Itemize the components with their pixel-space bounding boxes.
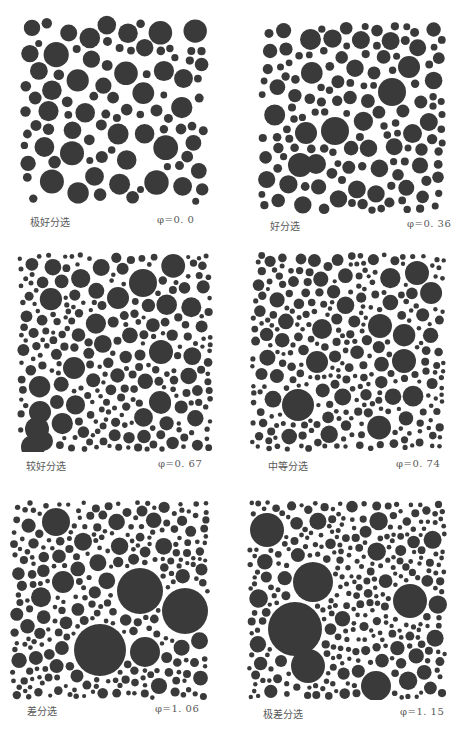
grain-circle [434,348,443,357]
grain-circle [130,421,134,425]
grain-circle [200,525,208,533]
grain-circle [63,254,67,258]
grain-circle [321,426,338,443]
grain-circle [349,416,354,421]
grain-circle [435,316,444,325]
grain-circle [348,199,356,207]
grain-circle [111,273,116,278]
grain-circle [290,309,295,314]
grain-circle [65,545,73,553]
grain-circle [21,45,38,62]
grain-circle [267,428,275,436]
grain-circle [259,419,268,428]
grain-circle [19,267,24,272]
grain-circle [58,607,65,614]
grain-circle [410,254,415,259]
grain-circle [403,124,422,143]
grain-circle [31,562,36,567]
grain-circle [253,682,257,686]
grain-circle [66,502,70,506]
grain-circle [332,254,344,266]
caption-very-poorly-sorted: 极差分选 [263,706,303,721]
grain-circle [440,509,445,514]
grain-circle [126,691,131,696]
grain-circle [161,331,165,335]
grain-circle [284,305,289,310]
grain-circle [67,182,88,203]
grain-circle [192,198,199,205]
grain-circle [195,94,204,103]
grain-circle [82,501,86,505]
grain-circle [30,555,35,560]
grain-circle [388,524,393,529]
grain-circle [386,596,391,601]
grain-circle [173,658,182,667]
grain-circle [20,556,28,564]
grain-circle [50,659,64,673]
grain-circle [405,632,414,641]
grain-circle [142,315,146,319]
grain-circle [426,568,431,573]
grain-circle [21,81,32,92]
grain-circle [26,694,31,699]
grain-circle [90,616,95,621]
grain-circle [393,324,415,346]
grain-circle [442,258,446,262]
grain-circle [86,157,93,164]
grain-circle [272,504,280,512]
grain-circle [382,32,400,50]
grain-circle [130,385,138,393]
grain-circle [326,87,333,94]
grain-circle [93,538,98,543]
grain-circle [162,588,208,634]
grain-circle [309,428,314,433]
grain-circle [346,591,351,596]
grain-circle [391,22,399,30]
grain-circle [85,167,104,186]
grain-circle [308,553,313,558]
grain-circle [336,328,341,333]
grain-circle [74,533,92,551]
grain-circle [314,439,322,447]
grain-circle [265,500,270,505]
grain-circle [122,630,126,634]
grain-circle [384,620,389,625]
grain-circle [159,502,170,513]
grain-circle [94,419,99,424]
grain-circle [417,561,421,565]
grain-circle [78,426,90,438]
grain-circle [298,345,309,356]
grain-circle [186,687,191,692]
grain-circle [150,530,155,535]
grain-circle [290,517,303,530]
grain-circle [20,619,34,633]
grain-circle [195,539,200,544]
grain-circle [179,558,184,563]
grain-circle [101,110,110,119]
grain-circle [189,430,194,435]
grain-circle [320,144,329,153]
grain-circle [354,398,359,403]
grain-circle [147,542,151,546]
grain-circle [377,307,382,312]
grain-circle [275,655,287,667]
grain-circle [280,153,287,160]
grain-circle [341,420,351,430]
grain-circle [192,385,203,396]
grain-circle [336,374,341,379]
grain-circle [187,410,203,426]
grain-packing-illustration [17,252,213,452]
grain-circle [439,111,446,118]
grain-circle [100,438,108,446]
grain-circle [202,516,209,523]
grain-circle [196,272,203,279]
grain-circle [109,278,114,283]
grain-circle [331,507,336,512]
grain-circle [11,679,16,684]
grain-circle [321,117,349,145]
grain-circle [171,579,176,584]
grain-circle [433,571,438,576]
grain-circle [312,109,319,116]
grain-circle [250,636,266,652]
grain-circle [381,603,389,611]
